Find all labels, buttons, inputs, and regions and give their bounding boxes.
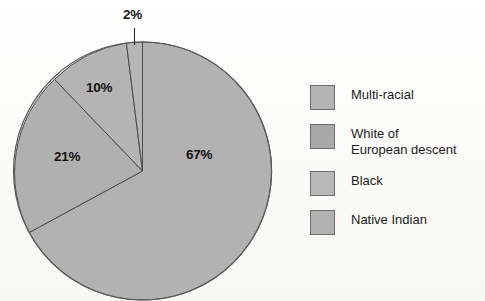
slice-value-label-native-indian: 2% (123, 7, 142, 22)
legend-item-multi-racial[interactable]: Multi-racial (310, 84, 485, 110)
legend-swatch-native-indian (310, 210, 335, 235)
pie-chart-graphic (0, 0, 300, 301)
legend-label-native-indian: Native Indian (351, 209, 427, 228)
pie-chart-figure: 67% 21% 10% 2% Multi-racial White of Eur… (0, 0, 485, 301)
pie-chart-area: 67% 21% 10% 2% (0, 0, 300, 301)
slice-value-label-white-european: 21% (54, 149, 80, 164)
legend-item-native-indian[interactable]: Native Indian (310, 209, 485, 235)
legend-swatch-multi-racial (310, 85, 335, 110)
legend-item-white-european[interactable]: White of European descent (310, 123, 485, 158)
chart-legend: Multi-racial White of European descent B… (310, 84, 485, 248)
slice-value-label-black: 10% (86, 80, 112, 95)
legend-item-black[interactable]: Black (310, 170, 485, 196)
legend-label-multi-racial: Multi-racial (351, 84, 414, 103)
legend-swatch-white-european (310, 124, 335, 149)
legend-label-white-european: White of European descent (351, 123, 457, 158)
legend-label-black: Black (351, 170, 383, 189)
slice-value-label-multi-racial: 67% (186, 147, 212, 162)
legend-swatch-black (310, 171, 335, 196)
